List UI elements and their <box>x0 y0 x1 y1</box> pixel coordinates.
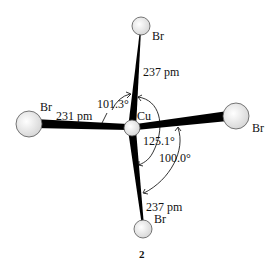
bond-bottom <box>128 130 144 226</box>
molecule-diagram: Br Br Br Br Cu 237 pm 231 pm 237 pm 101.… <box>0 0 276 266</box>
angle-arrow-231 <box>102 113 107 123</box>
atom-br-top <box>132 17 150 35</box>
atom-br-left <box>16 111 42 137</box>
label-br-left: Br <box>40 100 52 114</box>
angle-label-101: 101.3° <box>97 97 129 111</box>
label-br-top: Br <box>152 29 164 43</box>
compound-number: 2 <box>139 248 145 260</box>
label-br-bottom: Br <box>154 212 166 226</box>
label-cu: Cu <box>137 109 151 123</box>
bond-length-bottom: 237 pm <box>146 200 183 214</box>
atom-br-right <box>223 103 249 129</box>
bond-length-top: 237 pm <box>143 65 180 79</box>
label-br-right: Br <box>252 121 264 135</box>
angle-label-125: 125.1° <box>143 134 175 148</box>
molecule-svg: Br Br Br Br Cu 237 pm 231 pm 237 pm 101.… <box>0 0 276 266</box>
atom-br-bottom <box>134 220 152 238</box>
angle-label-100: 100.0° <box>159 151 191 165</box>
angle-arc-125 <box>138 97 160 165</box>
bond-length-left: 231 pm <box>56 109 93 123</box>
